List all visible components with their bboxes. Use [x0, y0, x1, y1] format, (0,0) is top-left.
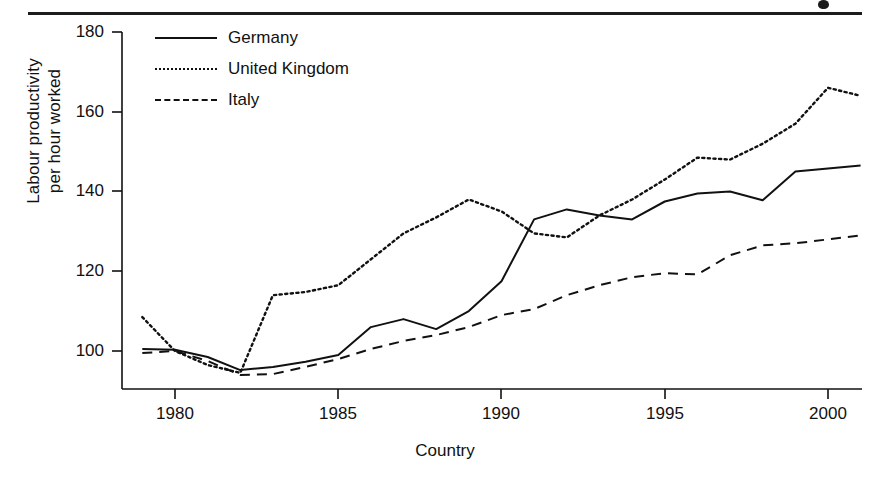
legend-label-united-kingdom: United Kingdom — [228, 59, 349, 79]
y-tick-label-100: 100 — [44, 341, 104, 361]
x-tick-label-1980: 1980 — [135, 404, 215, 424]
y-axis-ticks — [112, 32, 122, 351]
x-axis-title: Country — [0, 441, 890, 461]
line-swatch-dotted-icon — [155, 63, 217, 75]
series-layer — [142, 88, 860, 375]
series-line-united-kingdom — [142, 88, 860, 373]
line-swatch-dashed-icon — [155, 94, 217, 106]
y-tick-label-160: 160 — [44, 102, 104, 122]
y-axis-title-line1: Labour productivity — [23, 1, 44, 261]
x-tick-label-2000: 2000 — [788, 404, 868, 424]
chart-legend: Germany United Kingdom Italy — [155, 22, 349, 115]
x-tick-label-1990: 1990 — [461, 404, 541, 424]
x-axis-ticks — [175, 389, 828, 399]
series-line-germany — [142, 166, 860, 371]
line-swatch-solid-icon — [155, 32, 217, 44]
series-line-italy — [142, 235, 860, 375]
legend-item-italy: Italy — [155, 84, 349, 115]
legend-item-germany: Germany — [155, 22, 349, 53]
legend-label-italy: Italy — [228, 90, 259, 110]
x-tick-label-1985: 1985 — [298, 404, 378, 424]
legend-item-united-kingdom: United Kingdom — [155, 53, 349, 84]
x-tick-label-1995: 1995 — [625, 404, 705, 424]
y-tick-label-140: 140 — [44, 181, 104, 201]
line-chart-plot — [0, 0, 890, 478]
y-tick-label-180: 180 — [44, 22, 104, 42]
figure-container: Labour productivity per hour worked Coun… — [0, 0, 890, 478]
legend-label-germany: Germany — [228, 28, 298, 48]
y-tick-label-120: 120 — [44, 261, 104, 281]
